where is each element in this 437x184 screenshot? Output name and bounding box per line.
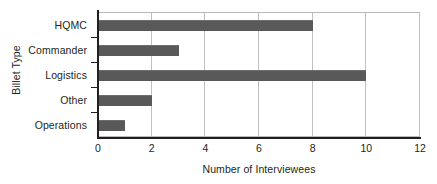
bar-band <box>98 63 419 88</box>
x-axis-tick-label: 4 <box>202 141 208 155</box>
x-axis-tick-labels: 024681012 <box>0 141 437 155</box>
plot-area <box>98 12 420 137</box>
x-axis-line <box>97 137 421 139</box>
gridline <box>419 13 420 136</box>
y-axis-minor-tick <box>91 62 98 63</box>
y-axis-tick-label: HQMC <box>18 12 92 37</box>
bar[interactable] <box>98 20 313 31</box>
y-axis-minor-tick <box>91 112 98 113</box>
y-axis-tick-labels: HQMCCommanderLogisticsOtherOperations <box>18 12 92 137</box>
y-axis-tick-label: Operations <box>18 112 92 137</box>
bar[interactable] <box>98 95 152 106</box>
x-axis-title: Number of Interviewees <box>98 163 420 175</box>
bar-chart: Billet Type HQMCCommanderLogisticsOtherO… <box>0 0 437 184</box>
bar-band <box>98 13 419 38</box>
y-axis-tick-label: Logistics <box>18 62 92 87</box>
y-axis-line <box>97 10 99 139</box>
bar[interactable] <box>98 70 366 81</box>
bar[interactable] <box>98 120 125 131</box>
x-axis-tick-label: 2 <box>149 141 155 155</box>
bar-band <box>98 113 419 138</box>
bar[interactable] <box>98 45 179 56</box>
x-axis-tick-label: 6 <box>256 141 262 155</box>
x-axis-tick-label: 10 <box>360 141 372 155</box>
x-axis-tick-label: 0 <box>95 141 101 155</box>
bar-band <box>98 38 419 63</box>
y-axis-minor-tick <box>91 87 98 88</box>
x-axis-tick-label: 12 <box>414 141 426 155</box>
y-axis-tick-label: Commander <box>18 37 92 62</box>
y-axis-tick-label: Other <box>18 87 92 112</box>
bar-series <box>98 13 419 136</box>
x-axis-tick-label: 8 <box>310 141 316 155</box>
bar-band <box>98 88 419 113</box>
y-axis-minor-tick <box>91 37 98 38</box>
